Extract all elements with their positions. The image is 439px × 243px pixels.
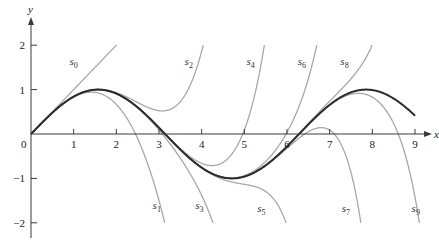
axes: xy0123456789−2−112	[13, 3, 439, 238]
x-tick-label: 3	[156, 138, 162, 150]
y-tick-label: −2	[13, 217, 25, 229]
curve-s4	[31, 45, 264, 165]
y-tick-label: 1	[20, 84, 26, 96]
y-axis-arrow-icon	[28, 17, 34, 25]
x-tick-label: 2	[114, 138, 120, 150]
x-tick-label: 5	[242, 138, 248, 150]
label-s3: s3	[195, 199, 203, 214]
label-s2: s2	[185, 55, 193, 70]
curve-s9	[31, 90, 420, 223]
curve-s5	[31, 90, 286, 223]
x-axis-label: x	[433, 128, 439, 140]
y-tick-label: 2	[20, 39, 26, 51]
y-tick-label: −1	[13, 172, 25, 184]
label-s9: s9	[412, 202, 420, 217]
label-s4: s4	[246, 55, 254, 70]
label-s5: s5	[257, 202, 265, 217]
y-axis-label: y	[27, 3, 33, 15]
curve-s2	[31, 45, 203, 134]
label-s0: s0	[69, 55, 77, 70]
origin-label: 0	[21, 138, 27, 150]
curve-s1	[31, 92, 165, 223]
taylor-polynomials-chart: xy0123456789−2−112 s0s1s2s3s4s5s6s7s8s9	[0, 0, 439, 243]
curve-s3	[31, 90, 213, 223]
x-tick-label: 9	[412, 138, 418, 150]
x-axis-arrow-icon	[424, 131, 432, 137]
x-tick-label: 7	[327, 138, 333, 150]
label-s7: s7	[342, 202, 350, 217]
x-tick-label: 8	[370, 138, 376, 150]
series-labels: s0s1s2s3s4s5s6s7s8s9	[69, 55, 419, 217]
x-tick-label: 6	[284, 138, 290, 150]
label-s8: s8	[340, 55, 348, 70]
label-s6: s6	[298, 55, 306, 70]
x-tick-label: 4	[199, 138, 205, 150]
x-tick-label: 1	[71, 138, 77, 150]
